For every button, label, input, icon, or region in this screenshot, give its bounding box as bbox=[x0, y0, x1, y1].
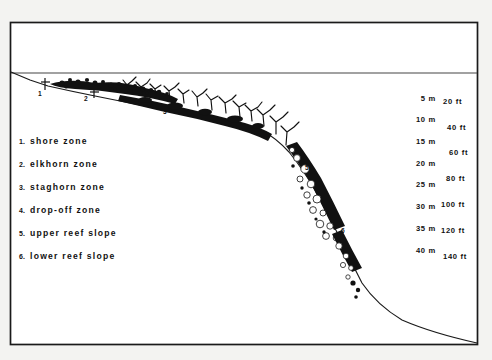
depth-imperial-120ft: 120 ft bbox=[441, 226, 465, 235]
legend-item-3-number: 3. bbox=[19, 184, 25, 191]
legend-item-6: 6. lower reef slope bbox=[19, 251, 115, 261]
legend-item-2-number: 2. bbox=[19, 161, 25, 168]
legend-item-1: 1. shore zone bbox=[19, 136, 88, 146]
depth-imperial-140ft: 140 ft bbox=[443, 252, 467, 261]
legend-item-4-number: 4. bbox=[19, 207, 25, 214]
legend-item-5-number: 5. bbox=[19, 230, 25, 237]
zone-marker-6: 6 bbox=[341, 227, 345, 234]
depth-metric-15m: 15 m bbox=[416, 137, 436, 146]
depth-metric-10m: 10 m bbox=[416, 115, 436, 124]
depth-metric-35m: 35 m bbox=[416, 224, 436, 233]
legend-item-3-label: staghorn zone bbox=[30, 182, 105, 192]
legend-item-5-label: upper reef slope bbox=[30, 228, 117, 238]
zone-marker-1: 1 bbox=[38, 90, 42, 97]
legend-item-3: 3. staghorn zone bbox=[19, 182, 105, 192]
legend-item-6-label: lower reef slope bbox=[30, 251, 115, 261]
depth-imperial-100ft: 100 ft bbox=[441, 200, 465, 209]
depth-metric-5m: 5 m bbox=[421, 94, 436, 103]
legend-item-2-label: elkhorn zone bbox=[30, 159, 98, 169]
legend-item-4-label: drop-off zone bbox=[30, 205, 101, 215]
depth-imperial-20ft: 20 ft bbox=[443, 97, 462, 106]
legend-item-1-label: shore zone bbox=[30, 136, 88, 146]
zone-marker-5: 5 bbox=[305, 164, 309, 171]
legend-item-4: 4. drop-off zone bbox=[19, 205, 101, 215]
depth-imperial-80ft: 80 ft bbox=[446, 174, 465, 183]
zone-marker-3: 3 bbox=[163, 108, 167, 115]
depth-metric-30m: 30 m bbox=[416, 202, 436, 211]
depth-metric-40m: 40 m bbox=[416, 246, 436, 255]
depth-imperial-60ft: 60 ft bbox=[449, 148, 468, 157]
legend-item-6-number: 6. bbox=[19, 253, 25, 260]
depth-metric-20m: 20 m bbox=[416, 159, 436, 168]
reef-zonation-diagram: 1 2 3 4 5 6 1. shore zone 2. elkhorn zon… bbox=[0, 0, 492, 360]
legend-item-1-number: 1. bbox=[19, 138, 25, 145]
zone-marker-2: 2 bbox=[84, 95, 88, 102]
legend-item-5: 5. upper reef slope bbox=[19, 228, 117, 238]
zone-marker-4: 4 bbox=[265, 131, 269, 138]
figure-root: 1 2 3 4 5 6 1. shore zone 2. elkhorn zon… bbox=[0, 0, 492, 360]
depth-imperial-40ft: 40 ft bbox=[447, 123, 466, 132]
legend-item-2: 2. elkhorn zone bbox=[19, 159, 98, 169]
depth-metric-25m: 25 m bbox=[416, 180, 436, 189]
